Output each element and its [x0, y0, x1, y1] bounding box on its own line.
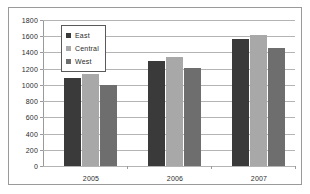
y-axis-tick-1800	[40, 20, 43, 21]
y-axis-label-1600: 1600	[22, 33, 38, 40]
bar-east-2007	[232, 39, 249, 166]
bar-west-2006	[184, 68, 201, 166]
chart-legend: EastCentralWest	[61, 25, 106, 72]
legend-item-east[interactable]: East	[66, 29, 99, 42]
y-axis-tick-1600	[40, 36, 43, 37]
x-axis-label-2005: 2005	[64, 175, 118, 182]
legend-label: West	[75, 58, 92, 65]
plot-area: 020040060080010001200140016001800 200520…	[43, 20, 295, 166]
legend-label: East	[75, 32, 90, 39]
x-axis-tick-1	[211, 166, 212, 169]
y-axis-label-200: 200	[26, 146, 38, 153]
y-axis-label-1200: 1200	[22, 65, 38, 72]
y-axis-label-1400: 1400	[22, 49, 38, 56]
y-axis-tick-800	[40, 101, 43, 102]
bar-central-2005	[82, 74, 99, 166]
y-axis-label-0: 0	[34, 163, 38, 170]
bar-group-2007: 2007	[232, 20, 286, 166]
y-axis-label-800: 800	[26, 98, 38, 105]
y-axis-label-600: 600	[26, 114, 38, 121]
y-axis-tick-1400	[40, 52, 43, 53]
y-axis-label-400: 400	[26, 130, 38, 137]
y-axis-tick-200	[40, 150, 43, 151]
bar-central-2007	[250, 35, 267, 166]
legend-swatch-icon-east	[66, 33, 71, 38]
x-axis-tick-2	[295, 166, 296, 169]
y-axis-tick-600	[40, 117, 43, 118]
y-axis-line	[43, 20, 44, 166]
legend-swatch-icon-west	[66, 59, 71, 64]
legend-item-central[interactable]: Central	[66, 42, 99, 55]
chart-frame: 020040060080010001200140016001800 200520…	[8, 7, 302, 185]
y-axis-label-1000: 1000	[22, 81, 38, 88]
y-axis-tick-1000	[40, 85, 43, 86]
x-axis-tick-0	[127, 166, 128, 169]
legend-swatch-icon-central	[66, 46, 71, 51]
legend-item-west[interactable]: West	[66, 55, 99, 68]
bar-central-2006	[166, 57, 183, 167]
gridline-0	[43, 166, 295, 167]
y-axis-tick-400	[40, 134, 43, 135]
x-axis-label-2007: 2007	[232, 175, 286, 182]
legend-label: Central	[75, 45, 99, 52]
y-axis-tick-0	[40, 166, 43, 167]
y-axis-tick-1200	[40, 69, 43, 70]
x-axis-label-2006: 2006	[148, 175, 202, 182]
y-axis-label-1800: 1800	[22, 17, 38, 24]
bar-east-2006	[148, 61, 165, 166]
bar-west-2005	[100, 85, 117, 166]
bar-east-2005	[64, 78, 81, 166]
bar-group-2006: 2006	[148, 20, 202, 166]
bar-west-2007	[268, 48, 285, 166]
